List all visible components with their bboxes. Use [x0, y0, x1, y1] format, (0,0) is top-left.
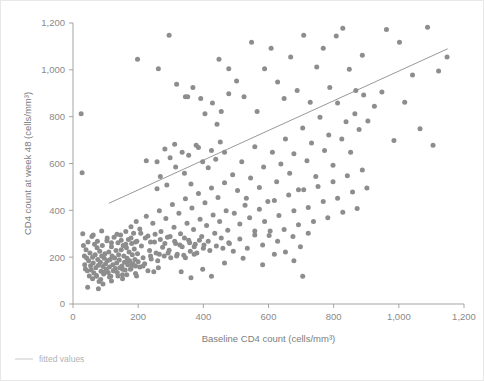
data-point: [213, 157, 218, 162]
y-tick-label: 1,000: [41, 64, 65, 75]
data-point: [220, 246, 225, 251]
data-point: [166, 250, 171, 255]
data-point: [186, 153, 191, 158]
data-point: [202, 200, 207, 205]
data-point: [226, 91, 231, 96]
scatter-chart: 02004006008001,0001,20002004006008001,00…: [1, 1, 484, 381]
data-point: [94, 273, 99, 278]
data-point: [216, 57, 221, 62]
data-point: [317, 115, 322, 120]
data-point: [245, 246, 250, 251]
data-point: [135, 57, 140, 62]
data-point: [137, 227, 142, 232]
data-point: [260, 262, 265, 267]
data-point: [261, 165, 266, 170]
data-point: [436, 69, 441, 74]
data-point: [340, 26, 345, 31]
data-point: [115, 273, 120, 278]
data-point: [105, 235, 110, 240]
data-point: [158, 237, 163, 242]
data-point: [308, 100, 313, 105]
data-point: [325, 215, 330, 220]
data-point: [226, 240, 231, 245]
data-point: [162, 146, 167, 151]
data-point: [139, 243, 144, 248]
x-tick-label: 800: [326, 311, 342, 322]
data-point: [327, 85, 332, 90]
data-point: [130, 252, 135, 257]
data-point: [267, 233, 272, 238]
data-point: [206, 165, 211, 170]
data-point: [290, 234, 295, 239]
data-point: [282, 227, 287, 232]
data-point: [183, 255, 188, 260]
data-point: [95, 239, 100, 244]
data-point: [112, 256, 117, 261]
data-point: [138, 231, 143, 236]
data-point: [397, 40, 402, 45]
data-point: [252, 144, 257, 149]
data-point: [188, 249, 193, 254]
data-point: [125, 258, 130, 263]
data-point: [157, 252, 162, 257]
data-point: [164, 183, 169, 188]
data-point: [282, 96, 287, 101]
data-point: [168, 255, 173, 260]
data-point: [173, 165, 178, 170]
data-point: [80, 170, 85, 175]
data-point: [190, 85, 195, 90]
data-point: [123, 229, 128, 234]
data-point: [219, 235, 224, 240]
data-point: [176, 211, 181, 216]
data-point: [114, 248, 119, 253]
data-point: [197, 238, 202, 243]
data-point: [241, 256, 246, 261]
data-point: [269, 46, 274, 51]
data-point: [174, 254, 179, 259]
data-point: [106, 250, 111, 255]
figure-container: 02004006008001,0001,20002004006008001,00…: [0, 0, 484, 381]
data-point: [311, 219, 316, 224]
x-tick-label: 200: [130, 311, 146, 322]
data-point: [296, 187, 301, 192]
data-point: [188, 275, 193, 280]
data-point: [255, 109, 260, 114]
y-tick-label: 200: [49, 252, 65, 263]
data-point: [445, 54, 450, 59]
data-point: [278, 161, 283, 166]
data-point: [172, 239, 177, 244]
data-point: [155, 258, 160, 263]
x-tick-label: 600: [261, 311, 277, 322]
data-point: [100, 282, 105, 287]
data-point: [179, 269, 184, 274]
data-point: [298, 244, 303, 249]
data-point: [135, 251, 140, 256]
data-point: [260, 242, 265, 247]
data-point: [321, 46, 326, 51]
data-point: [84, 247, 89, 252]
data-point: [357, 127, 362, 132]
data-point: [93, 252, 98, 257]
data-point: [347, 67, 352, 72]
data-point: [141, 264, 146, 269]
data-point: [249, 40, 254, 45]
data-point: [109, 240, 114, 245]
data-point: [379, 90, 384, 95]
data-point: [111, 268, 116, 273]
data-point: [129, 235, 134, 240]
y-tick-label: 800: [49, 111, 65, 122]
data-point: [162, 254, 167, 259]
data-point: [96, 286, 101, 291]
data-point: [360, 53, 365, 58]
data-point: [372, 104, 377, 109]
y-tick-label: 1,200: [41, 17, 65, 28]
y-tick-label: 400: [49, 205, 65, 216]
data-point: [272, 252, 277, 257]
data-point: [158, 174, 163, 179]
data-point: [183, 196, 188, 201]
data-point: [272, 198, 277, 203]
data-point: [209, 274, 214, 279]
data-point: [145, 268, 150, 273]
data-point: [119, 238, 124, 243]
data-point: [244, 196, 249, 201]
